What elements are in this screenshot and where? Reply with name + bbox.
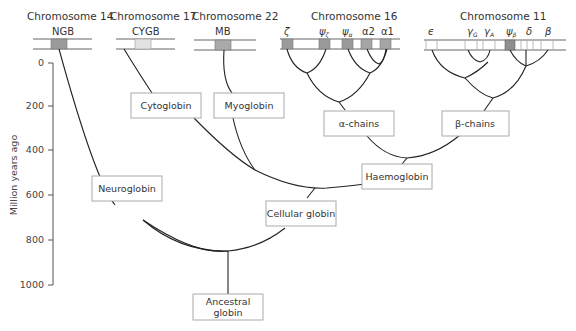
gene-mb xyxy=(215,40,231,50)
gene-label-cygb: CYGB xyxy=(132,26,160,37)
gene-psi-alpha xyxy=(342,39,353,49)
chromosome-17: CYGB xyxy=(116,26,175,49)
tick-200: 200 xyxy=(26,100,44,111)
svg-text:Haemoglobin: Haemoglobin xyxy=(365,171,428,182)
svg-text:Cytoglobin: Cytoglobin xyxy=(141,100,192,111)
gene-label-alpha2: α2 xyxy=(362,26,375,37)
gene-alpha2 xyxy=(361,39,372,49)
tick-800: 800 xyxy=(26,234,44,245)
globin-evolution-diagram: Chromosome 14 Chromosome 17 Chromosome 2… xyxy=(0,0,576,331)
gene-cygb xyxy=(135,39,151,49)
chromosome-11-title: Chromosome 11 xyxy=(460,10,546,22)
svg-text:α-chains: α-chains xyxy=(339,118,379,129)
svg-text:Ancestral: Ancestral xyxy=(206,296,251,307)
chromosome-14-title: Chromosome 14 xyxy=(27,10,114,22)
gene-ngb xyxy=(51,39,67,49)
time-axis: 0 200 400 600 800 1000 Million years ago xyxy=(8,57,53,290)
chromosome-16-title: Chromosome 16 xyxy=(311,10,398,22)
gene-zeta xyxy=(282,39,293,49)
gene-label-beta: β xyxy=(544,26,552,37)
gene-label-psi-beta: ψβ xyxy=(506,26,517,39)
gene-label-zeta: ζ xyxy=(283,26,290,37)
node-cellular-globin: Cellular globin xyxy=(266,201,336,226)
node-haemoglobin: Haemoglobin xyxy=(362,164,432,189)
gene-label-gamma-a: γA xyxy=(484,26,494,38)
chromosome-14: NGB xyxy=(33,26,92,49)
gene-psi-zeta xyxy=(319,39,330,49)
gene-label-ngb: NGB xyxy=(52,26,74,37)
node-myoglobin: Myoglobin xyxy=(214,93,284,118)
chromosome-16: ζ ψζ ψα α2 α1 xyxy=(280,26,400,49)
chromosome-22-title: Chromosome 22 xyxy=(192,10,278,22)
gene-label-psi-alpha: ψα xyxy=(342,26,353,38)
svg-text:Cellular globin: Cellular globin xyxy=(267,208,335,219)
gene-label-alpha1: α1 xyxy=(381,26,394,37)
chromosome-11: ϵ γG γA ψβ δ β xyxy=(424,26,566,50)
svg-text:globin: globin xyxy=(213,307,242,318)
axis-title: Million years ago xyxy=(8,135,19,216)
svg-text:β-chains: β-chains xyxy=(455,118,495,129)
svg-text:Neuroglobin: Neuroglobin xyxy=(98,183,156,194)
node-neuroglobin: Neuroglobin xyxy=(92,176,162,201)
tick-400: 400 xyxy=(26,144,44,155)
tick-600: 600 xyxy=(26,189,44,200)
tick-1000: 1000 xyxy=(20,279,44,290)
node-cytoglobin: Cytoglobin xyxy=(131,93,201,118)
gene-label-epsilon: ϵ xyxy=(428,26,434,37)
gene-alpha1 xyxy=(380,39,391,49)
gene-label-mb: MB xyxy=(215,26,231,37)
gene-label-delta: δ xyxy=(526,26,532,37)
node-alpha-chains: α-chains xyxy=(324,111,394,136)
node-ancestral-globin: Ancestral globin xyxy=(193,294,263,320)
svg-text:Myoglobin: Myoglobin xyxy=(225,100,274,111)
node-beta-chains: β-chains xyxy=(442,111,509,136)
gene-label-gamma-g: γG xyxy=(467,26,478,38)
phylogeny-branches xyxy=(59,49,548,296)
tick-0: 0 xyxy=(38,57,44,68)
gene-psi-beta xyxy=(505,40,515,50)
chromosome-22: MB xyxy=(194,26,256,50)
chromosome-17-title: Chromosome 17 xyxy=(110,10,196,22)
gene-label-psi-zeta: ψζ xyxy=(319,26,330,39)
